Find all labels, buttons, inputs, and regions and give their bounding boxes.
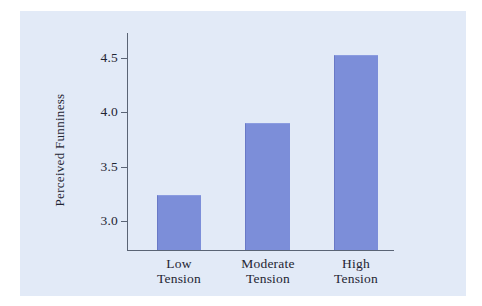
y-axis-title: Perceived Funniness: [52, 60, 68, 240]
y-tick-label-3-5: 3.5: [84, 160, 118, 174]
bar-high-tension: [334, 55, 378, 250]
x-axis-label-high-tension-line2: Tension: [296, 271, 416, 286]
chart-plot-area: Perceived Funniness 3.0 3.5 4.0 4.5 Low …: [0, 0, 482, 306]
y-tick-mark-3-0: [121, 221, 127, 222]
y-tick-mark-4-0: [121, 112, 127, 113]
y-tick-row-3-5: 3.5: [80, 160, 118, 174]
y-tick-row-3-0: 3.0: [80, 214, 118, 228]
y-tick-mark-3-5: [121, 167, 127, 168]
bar-low-tension: [157, 195, 201, 250]
y-tick-mark-4-5: [121, 58, 127, 59]
y-tick-label-4-0: 4.0: [84, 105, 118, 119]
x-axis-label-high-tension: High Tension: [296, 256, 416, 286]
y-tick-label-4-5: 4.5: [84, 51, 118, 65]
chart-figure: Perceived Funniness 3.0 3.5 4.0 4.5 Low …: [0, 0, 482, 306]
y-tick-row-4-0: 4.0: [80, 105, 118, 119]
x-axis-line: [127, 250, 394, 251]
y-tick-row-4-5: 4.5: [80, 51, 118, 65]
y-tick-label-3-0: 3.0: [84, 214, 118, 228]
x-axis-label-high-tension-line1: High: [296, 256, 416, 271]
bar-moderate-tension: [245, 123, 290, 250]
y-axis-line: [127, 33, 128, 251]
